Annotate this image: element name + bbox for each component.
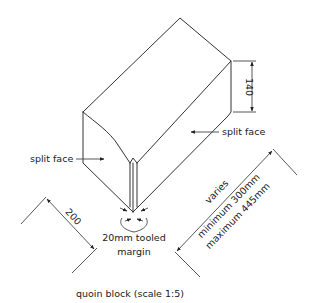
depth-dimension: 200 bbox=[21, 197, 97, 273]
length-dimension: varies minimum 300mm maximum 445mm bbox=[175, 149, 297, 277]
split-face-left-callout: split face bbox=[30, 153, 104, 164]
block-top-face bbox=[83, 18, 231, 163]
tooled-margin-label-line2: margin bbox=[117, 246, 151, 257]
quoin-block-diagram: 140 split face split face 20mm tooled ma… bbox=[0, 0, 315, 303]
tooled-margin-label-line1: 20mm tooled bbox=[102, 232, 165, 243]
split-face-left-label: split face bbox=[30, 153, 73, 164]
tooled-margin-callout: 20mm tooled margin bbox=[102, 208, 165, 257]
height-dimension: 140 bbox=[233, 61, 256, 112]
block-left-top-edge bbox=[83, 112, 130, 163]
split-face-right-label: split face bbox=[222, 126, 265, 137]
diagram-caption: quoin block (scale 1:5) bbox=[76, 288, 184, 299]
block-left-face bbox=[83, 112, 133, 212]
depth-dimension-label: 200 bbox=[63, 206, 83, 227]
quoin-block bbox=[83, 18, 231, 212]
split-face-right-callout: split face bbox=[191, 126, 265, 137]
tooled-margin-lines bbox=[130, 158, 137, 212]
height-dimension-label: 140 bbox=[244, 78, 255, 96]
